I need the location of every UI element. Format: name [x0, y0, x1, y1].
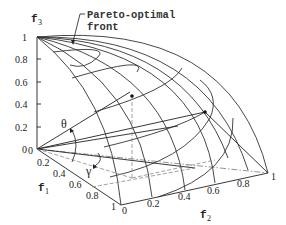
angle-arcs: [70, 128, 100, 169]
f3-tick-0.4: 0.4: [15, 99, 28, 110]
f1-tick-0: 0: [28, 145, 33, 156]
pareto-points: [130, 94, 207, 114]
f2-tick-0: 0: [122, 205, 127, 216]
svg-text:f: f: [200, 209, 207, 221]
f3-ticks: [37, 59, 41, 127]
svg-text:2: 2: [207, 214, 211, 223]
f1-tick-0.2: 0.2: [37, 157, 50, 168]
f1-tick-1: 1: [111, 201, 116, 212]
svg-text:1: 1: [45, 187, 49, 196]
f2-projection-line: [37, 149, 268, 173]
f3-tick-0.8: 0.8: [15, 54, 28, 65]
svg-text:3: 3: [38, 18, 42, 27]
f1-axis-label: f 1: [38, 182, 49, 196]
theta-arc: [72, 130, 76, 162]
f3-tick-0: 0: [22, 144, 27, 155]
f2-tick-0.6: 0.6: [207, 185, 220, 196]
f3-tick-0.2: 0.2: [15, 122, 28, 133]
pareto-surface-parallels: [53, 49, 233, 197]
pareto-front-diagram: 1 0.8 0.6 0.4 0.2 0 f 3 0 0.2 0.4 0.6 0.…: [0, 0, 286, 225]
theta-label: θ: [61, 117, 67, 131]
theta-lower-line: [37, 126, 178, 149]
f2-axis-label: f 2: [200, 209, 211, 223]
f3-axis-label: f 3: [31, 13, 42, 27]
f2-tick-0.4: 0.4: [178, 191, 191, 202]
f1-tick-0.8: 0.8: [86, 190, 99, 201]
ray-line: [37, 92, 130, 149]
annotation-leader: [73, 14, 85, 42]
svg-text:f: f: [38, 182, 45, 194]
f2-tick-1: 1: [271, 171, 276, 182]
f1-tick-labels: 0 0.2 0.4 0.6 0.8 1: [28, 145, 116, 212]
f3-tick-labels: 1 0.8 0.6 0.4 0.2 0: [15, 32, 28, 155]
f2-tick-0.2: 0.2: [147, 198, 160, 209]
f1-tick-0.6: 0.6: [69, 179, 82, 190]
annotation-line2: front: [87, 21, 119, 33]
annotation-line1: Pareto-optimal: [87, 9, 175, 21]
gamma-label: γ: [85, 164, 92, 178]
f3-tick-1: 1: [22, 32, 27, 43]
f2-tick-0.8: 0.8: [237, 178, 250, 189]
f1-tick-0.4: 0.4: [53, 168, 66, 179]
f3-tick-0.6: 0.6: [15, 77, 28, 88]
svg-text:f: f: [31, 13, 38, 25]
